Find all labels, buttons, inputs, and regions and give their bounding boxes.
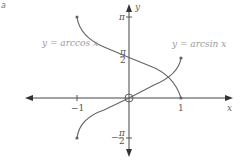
- arccos-label: y = arccos x: [41, 38, 98, 48]
- arccos-start-point: [75, 15, 78, 18]
- panel-label: a: [1, 1, 6, 10]
- chart: a y x −1 1 π π 2 − π 2 y = arccos x y = …: [0, 0, 243, 161]
- svg-text:−: −: [111, 132, 119, 142]
- y-axis-label: y: [134, 2, 141, 12]
- svg-text:2: 2: [119, 136, 125, 146]
- svg-text:2: 2: [120, 55, 126, 65]
- x-tick-label: 1: [178, 103, 184, 113]
- y-tick-label: π: [118, 12, 126, 22]
- y-axis-up-arrow-icon: [126, 4, 132, 12]
- x-axis-label: x: [227, 103, 232, 113]
- arccos-end-point: [179, 96, 182, 99]
- y-axis-down-arrow-icon: [126, 149, 132, 157]
- x-tick-label: −1: [71, 103, 84, 113]
- x-axis-right-arrow-icon: [225, 95, 233, 101]
- arcsin-start-point: [75, 136, 78, 139]
- arcsin-end-point: [179, 56, 182, 59]
- y-tick-label-neg-pi-over-2: − π 2: [111, 128, 126, 146]
- arcsin-label: y = arcsin x: [171, 39, 226, 49]
- y-axis: [126, 4, 132, 157]
- x-axis-left-arrow-icon: [25, 95, 33, 101]
